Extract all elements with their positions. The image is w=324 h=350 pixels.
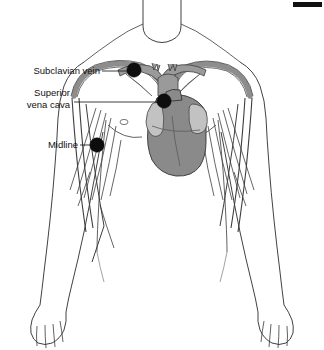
abdomen-fade-left	[97, 252, 104, 282]
marker-subclavian-vein	[127, 63, 141, 77]
anatomy-figure: Subclavian vein Superior vena cava Midli…	[0, 0, 324, 350]
abdomen-fade-right	[220, 252, 227, 282]
label-superior-vena-cava-line1: Superior	[34, 87, 70, 98]
right-shoulder-outline	[240, 62, 284, 305]
neck-outline	[143, 0, 181, 43]
marker-superior-vena-cava	[157, 94, 171, 108]
left-hand	[31, 305, 67, 348]
right-axillary-vein-a	[238, 98, 252, 232]
right-hand	[258, 305, 294, 348]
right-trapezius	[181, 24, 240, 62]
label-midline: Midline	[48, 139, 78, 150]
left-costal-margin	[100, 205, 114, 248]
right-rib-5	[208, 126, 223, 200]
label-superior-vena-cava-line2: vena cava	[27, 99, 71, 110]
label-subclavian-vein: Subclavian vein	[33, 65, 100, 76]
left-first-rib	[126, 74, 152, 96]
marker-midline	[90, 138, 104, 152]
left-rib-5	[101, 126, 116, 200]
top-right-black-bar-artifact	[293, 2, 322, 7]
anatomy-illustration: Subclavian vein Superior vena cava Midli…	[0, 0, 324, 350]
left-nipple	[120, 119, 128, 124]
left-atrial-appendage	[189, 104, 207, 134]
body-outline-group	[31, 0, 294, 348]
left-trapezius	[84, 24, 143, 62]
left-pectoral-curve	[108, 125, 142, 138]
left-axillary-vein-a	[72, 98, 86, 232]
